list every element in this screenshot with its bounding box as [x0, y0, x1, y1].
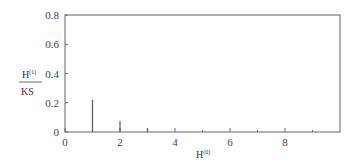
svg-text:H(1): H(1) — [22, 69, 36, 80]
plot-frame — [65, 15, 340, 132]
y-tick-label: 0 — [54, 126, 60, 138]
y-tick-label: 0.4 — [45, 68, 59, 80]
x-axis-ticks: 02468 — [62, 128, 312, 148]
svg-text:H(0): H(0) — [196, 149, 210, 160]
y-tick-label: 0.8 — [45, 9, 59, 21]
x-tick-label: 4 — [172, 136, 178, 148]
svg-text:KS: KS — [21, 86, 34, 97]
x-tick-label: 8 — [282, 136, 288, 148]
y-tick-label: 0.2 — [45, 97, 59, 109]
x-tick-label: 2 — [117, 136, 123, 148]
x-tick-label: 6 — [227, 136, 233, 148]
stem-chart: 00.20.40.60.8 02468 H(1) KS H(0) — [0, 0, 357, 166]
x-axis-label: H(0) — [196, 149, 210, 160]
data-stems — [93, 100, 148, 132]
y-axis-label: H(1) KS — [19, 69, 42, 97]
y-tick-label: 0.6 — [45, 38, 59, 50]
x-tick-label: 0 — [62, 136, 68, 148]
